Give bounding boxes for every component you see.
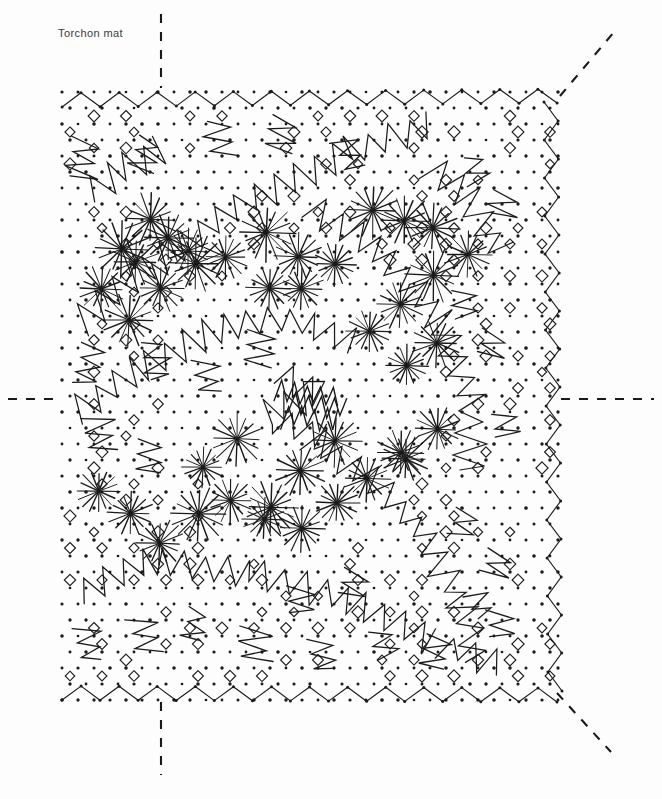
grid-dot [77, 315, 80, 318]
grid-dot [340, 554, 343, 557]
open-diamond-ring [409, 495, 419, 505]
grid-dot [492, 154, 496, 158]
grid-dot [244, 234, 247, 237]
grid-dot [389, 683, 392, 686]
grid-dot [188, 666, 192, 670]
grid-dot [556, 90, 559, 93]
grid-dot [444, 666, 448, 670]
grid-dot [396, 378, 400, 382]
open-diamond-ring [504, 398, 516, 410]
grid-dot [341, 363, 344, 366]
grid-dot [93, 187, 96, 190]
grid-dot [77, 603, 80, 606]
grid-dot [524, 282, 527, 285]
grid-dot [444, 90, 447, 93]
starburst-spoke [276, 470, 300, 471]
grid-dot [340, 650, 343, 653]
grid-dot [212, 202, 215, 205]
grid-dot [268, 378, 272, 382]
grid-dot [556, 378, 559, 381]
border-picot-dot [289, 699, 292, 702]
grid-dot [340, 170, 343, 173]
grid-dot [156, 122, 160, 126]
grid-dot [468, 650, 471, 653]
grid-dot [548, 490, 552, 494]
grid-dot [84, 522, 87, 525]
starburst-spoke [237, 439, 257, 459]
starburst-spoke [301, 275, 317, 289]
grid-dot [141, 603, 144, 606]
grid-dot [373, 107, 376, 110]
grid-dot [300, 314, 303, 317]
border-picot-dot [560, 614, 563, 617]
grid-dot [541, 123, 544, 126]
starburst-spoke [400, 304, 421, 305]
grid-dot [508, 474, 511, 477]
grid-dot [541, 539, 544, 542]
grid-dot [108, 698, 111, 701]
grid-dot [300, 570, 303, 573]
starburst-spoke [405, 274, 434, 275]
grid-dot [244, 394, 247, 397]
grid-dot [221, 347, 224, 350]
grid-dot [261, 427, 264, 430]
border-picot-dot [137, 699, 140, 702]
right-zigzag-border [544, 102, 562, 691]
grid-dot [61, 571, 64, 574]
starburst-spoke [434, 275, 459, 276]
grid-dot [460, 442, 463, 445]
grid-dot [140, 346, 143, 349]
grid-dot [372, 298, 375, 301]
grid-dot [276, 618, 279, 621]
grid-dot [476, 634, 479, 637]
starburst-spoke [337, 487, 354, 503]
grid-dot [156, 666, 159, 669]
grid-dot [412, 538, 415, 541]
spider-starburst [211, 479, 251, 523]
grid-dot [556, 186, 560, 190]
grid-dot [125, 571, 128, 574]
grid-dot [284, 442, 287, 445]
border-picot-dot [544, 329, 547, 332]
grid-dot [189, 347, 192, 350]
grid-dot [205, 443, 208, 446]
grid-dot [132, 298, 135, 301]
grid-dot [172, 666, 175, 669]
open-diamond-ring [120, 206, 132, 218]
grid-dot [324, 362, 328, 366]
grid-dot [309, 203, 312, 206]
grid-dot [516, 394, 519, 397]
pricking-page: Torchon mat [0, 0, 662, 799]
open-diamond-ring [353, 543, 364, 554]
grid-dot [540, 250, 544, 254]
spider-starburst [140, 265, 184, 311]
grid-dot [165, 331, 168, 334]
grid-dot [268, 474, 271, 477]
grid-dot [381, 475, 384, 478]
border-picot-dot [80, 91, 83, 94]
grid-dot [228, 234, 231, 237]
grid-dot [557, 251, 560, 254]
grid-dot [292, 106, 295, 109]
grid-dot [444, 442, 447, 445]
grid-dot [308, 234, 311, 237]
grid-dot [428, 186, 431, 189]
grid-dot [60, 346, 64, 350]
grid-dot [300, 666, 304, 670]
starburst-spoke [334, 264, 335, 286]
grid-dot [453, 139, 456, 142]
grid-dot [508, 378, 511, 381]
grid-dot [428, 602, 431, 605]
border-picot-dot [545, 405, 548, 408]
grid-dot [268, 442, 271, 445]
starburst-spoke [151, 193, 152, 220]
open-diamond-ring [129, 415, 139, 425]
grid-dot [229, 107, 232, 110]
starburst-spoke [240, 232, 267, 233]
starburst-spoke [395, 353, 407, 366]
grid-dot [228, 394, 231, 397]
grid-dot [108, 442, 111, 445]
grid-dot [84, 266, 88, 270]
grid-dot [132, 138, 135, 141]
grid-dot [132, 394, 135, 397]
